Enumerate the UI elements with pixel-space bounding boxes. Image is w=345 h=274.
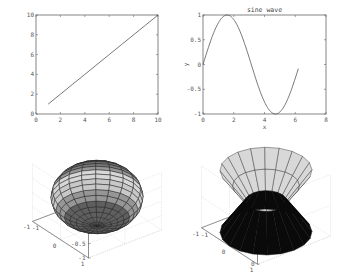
subplot-ellipsoid-surface: -101-101-1-0.500.51 bbox=[23, 160, 162, 267]
z-tick-label: -0.5 bbox=[71, 240, 86, 247]
sine-curve bbox=[203, 15, 298, 114]
subplot-line-chart: 02468100246810 bbox=[27, 11, 162, 123]
x-tick-label: 6 bbox=[293, 116, 297, 123]
x-tick-label: 10 bbox=[154, 116, 162, 123]
y-tick-label: 0.5 bbox=[190, 36, 201, 43]
y-tick-label: -1 bbox=[194, 110, 202, 117]
x-tick-label: 8 bbox=[324, 116, 328, 123]
z-tick-label: 0 bbox=[251, 260, 255, 267]
z-tick-label: -1 bbox=[78, 254, 86, 261]
x-tick-label: 4 bbox=[83, 116, 87, 123]
y-tick-label: 0 bbox=[197, 61, 201, 68]
axes-frame bbox=[203, 15, 326, 114]
figure-canvas: 02468100246810 02468-1-0.500.51sine wave… bbox=[0, 0, 345, 274]
y-tick-label: 1 bbox=[250, 266, 254, 273]
x-tick-label: -1 bbox=[32, 224, 40, 231]
x-tick-label: 4 bbox=[263, 116, 267, 123]
y-tick-label: 0 bbox=[222, 248, 226, 255]
y-tick-label: 0 bbox=[53, 242, 57, 249]
y-tick-label: 10 bbox=[27, 11, 35, 18]
x-tick-label: 6 bbox=[107, 116, 111, 123]
y-tick-label: 2 bbox=[30, 90, 34, 97]
subplot-sine-wave: 02468-1-0.500.51sine wavexy bbox=[182, 6, 328, 130]
x-tick-label: 2 bbox=[232, 116, 236, 123]
chart-title: sine wave bbox=[247, 6, 282, 14]
y-tick-label: -1 bbox=[192, 230, 200, 237]
x-tick-label: 8 bbox=[132, 116, 136, 123]
y-tick-label: 8 bbox=[30, 31, 34, 38]
y-tick-label: 6 bbox=[30, 51, 34, 58]
ellipsoid-surface bbox=[51, 160, 143, 233]
subplot-cone-surface: -101-10100.51 bbox=[192, 147, 331, 273]
y-tick-label: 0 bbox=[30, 110, 34, 117]
x-axis-label: x bbox=[263, 123, 267, 130]
y-axis-label: y bbox=[182, 62, 190, 66]
y-tick-label: -1 bbox=[23, 223, 31, 230]
cone-surface bbox=[220, 147, 312, 255]
y-tick-label: 1 bbox=[81, 260, 85, 267]
y-tick-label: 4 bbox=[30, 70, 34, 77]
x-tick-label: 2 bbox=[59, 116, 63, 123]
x-tick-label: 0 bbox=[201, 116, 205, 123]
y-tick-label: 1 bbox=[197, 11, 201, 18]
data-line bbox=[48, 15, 158, 104]
x-tick-label: 0 bbox=[34, 116, 38, 123]
y-tick-label: -0.5 bbox=[187, 85, 202, 92]
x-tick-label: -1 bbox=[201, 231, 209, 238]
